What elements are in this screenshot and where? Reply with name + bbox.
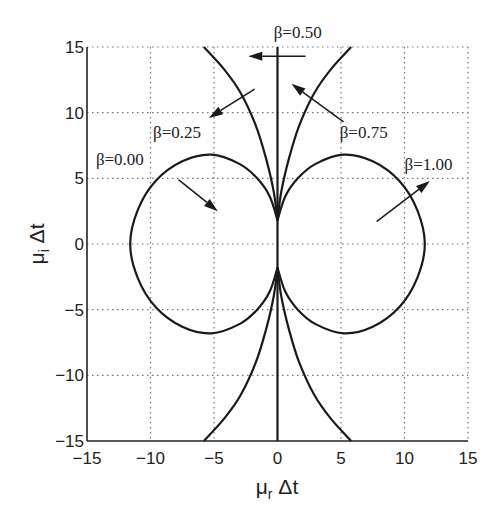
y-tick-label: 15 — [65, 38, 84, 57]
annotation-labels: β=0.00β=0.25β=0.50β=0.75β=1.00 — [96, 23, 453, 175]
curve-0-75-mirror — [278, 268, 352, 441]
x-tick-label: 0 — [273, 449, 282, 468]
stability-region-chart: −15−10−5051015 −15−10−5051015 β=0.00β=0.… — [0, 0, 504, 520]
y-tick-label: −15 — [55, 432, 84, 451]
arrowhead-icon — [204, 199, 218, 211]
annotation-arrow-line — [377, 189, 419, 221]
annotation-arrows — [178, 52, 429, 222]
annotation-arrow-line — [221, 89, 255, 110]
y-tick-label: 5 — [75, 169, 84, 188]
annotation-label: β=0.00 — [96, 150, 144, 169]
arrowhead-icon — [248, 52, 262, 61]
annotation-label: β=0.25 — [153, 123, 201, 142]
annotation-label: β=1.00 — [405, 155, 453, 174]
y-tick-label: 10 — [65, 104, 84, 123]
x-tick-label: −10 — [136, 449, 165, 468]
x-axis-label: μr Δt — [256, 475, 299, 502]
annotation-arrow-line — [178, 180, 206, 203]
curve-0-25-mirror — [204, 268, 278, 441]
y-tick-label: 0 — [75, 235, 84, 254]
arrowhead-icon — [416, 181, 430, 193]
x-tick-label: 5 — [336, 449, 345, 468]
arrowhead-icon — [209, 107, 223, 118]
annotation-label: β=0.75 — [340, 123, 388, 142]
x-tick-label: 10 — [395, 449, 414, 468]
y-tick-label: −10 — [55, 366, 84, 385]
y-tick-labels: −15−10−5051015 — [55, 38, 84, 451]
curve-0-25 — [204, 47, 278, 220]
arrowhead-icon — [291, 84, 305, 96]
x-tick-labels: −15−10−5051015 — [73, 449, 478, 468]
x-tick-label: −5 — [204, 449, 223, 468]
annotation-label: β=0.50 — [274, 23, 322, 42]
y-tick-label: −5 — [65, 301, 84, 320]
annotation-arrow-line — [303, 92, 344, 122]
x-tick-label: −15 — [73, 449, 102, 468]
stability-curves — [130, 47, 425, 441]
x-tick-label: 15 — [459, 449, 478, 468]
y-axis-label: μi Δt — [25, 223, 52, 264]
